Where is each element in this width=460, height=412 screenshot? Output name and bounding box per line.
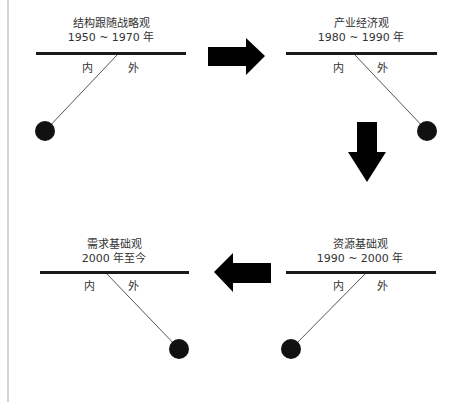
pendulum-string [106, 273, 179, 349]
pendulum-ball [281, 339, 301, 359]
panel-view-name: 结构跟随战略观 [31, 17, 191, 31]
pendulum-ball [417, 121, 437, 141]
panel-period: 1980 ~ 1990 年 [281, 31, 441, 45]
pendulum-ball [169, 339, 189, 359]
pendulum-string [291, 273, 366, 349]
inner-label: 内 [82, 63, 93, 75]
panel-view-name: 资源基础观 [280, 238, 440, 252]
panel-view-name: 需求基础观 [34, 238, 194, 252]
panel-period: 1990 ~ 2000 年 [280, 252, 440, 266]
panel-title: 资源基础观 1990 ~ 2000 年 [280, 238, 440, 266]
outer-label: 外 [128, 281, 139, 293]
inner-label: 内 [333, 63, 344, 75]
panel-view-name: 产业经济观 [281, 17, 441, 31]
arrow-down-icon [348, 122, 386, 182]
pendulum-bar [286, 271, 436, 274]
arrow-left-icon [214, 253, 271, 292]
outer-label: 外 [128, 63, 139, 75]
panel-period: 2000 年至今 [34, 252, 194, 266]
outer-label: 外 [377, 281, 388, 293]
panel-title: 结构跟随战略观 1950 ~ 1970 年 [31, 17, 191, 45]
diagram-graphics [0, 0, 460, 412]
pendulum-bar [36, 52, 186, 55]
arrow-right-icon [208, 38, 265, 75]
outer-label: 外 [377, 63, 388, 75]
pendulum-ball [35, 121, 55, 141]
pendulum-bar [286, 52, 437, 55]
inner-label: 内 [84, 281, 95, 293]
pendulum-bar [40, 271, 189, 274]
pendulum-string [354, 54, 427, 131]
inner-label: 内 [333, 281, 344, 293]
panel-title: 需求基础观 2000 年至今 [34, 238, 194, 266]
panel-title: 产业经济观 1980 ~ 1990 年 [281, 17, 441, 45]
panel-period: 1950 ~ 1970 年 [31, 31, 191, 45]
